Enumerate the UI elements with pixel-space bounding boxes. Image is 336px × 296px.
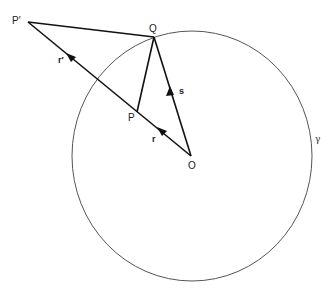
label-o: O bbox=[188, 160, 196, 171]
label-q: Q bbox=[149, 23, 157, 34]
segment-q-p bbox=[137, 37, 154, 112]
inversion-diagram: P′ Q P O r′ r s γ bbox=[0, 0, 336, 296]
label-circle-gamma: γ bbox=[315, 134, 320, 144]
label-p: P bbox=[128, 112, 135, 123]
segment-pprime-q bbox=[28, 22, 154, 37]
label-vector-r: r bbox=[152, 134, 156, 144]
label-p-prime: P′ bbox=[12, 15, 21, 26]
segment-o-q bbox=[154, 37, 191, 156]
arrow-s-icon bbox=[166, 86, 174, 96]
label-vector-s: s bbox=[179, 86, 184, 96]
circle-gamma bbox=[72, 31, 312, 281]
ray-o-pprime bbox=[28, 22, 191, 156]
label-vector-r-prime: r′ bbox=[58, 55, 64, 65]
